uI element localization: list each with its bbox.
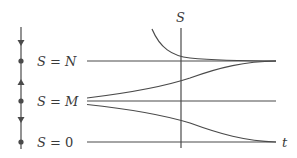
label-s-equals-m: S = M [37, 95, 78, 108]
label-var: S [37, 94, 46, 109]
s-axis-label: S [176, 11, 185, 24]
label-val: 0 [65, 135, 73, 150]
label-s-equals-zero: S = 0 [37, 136, 73, 149]
phase-diagram: S = N S = M S = 0 S t [0, 0, 297, 158]
label-eq: = [50, 54, 61, 69]
t-axis-label: t [282, 136, 287, 149]
arrow-down-icon [18, 40, 25, 46]
label-var: S [37, 54, 46, 69]
label-val: M [65, 94, 78, 109]
arrow-up-icon [18, 79, 25, 85]
t-axis-label-text: t [282, 135, 287, 150]
equilibrium-dot-n [18, 58, 23, 63]
arrow-down-icon [18, 117, 25, 123]
label-eq: = [50, 94, 61, 109]
equilibrium-dot-m [18, 98, 23, 103]
label-var: S [37, 135, 46, 150]
label-val: N [65, 54, 76, 69]
equilibrium-dot-zero [18, 139, 23, 144]
s-axis-label-text: S [176, 10, 185, 25]
label-s-equals-n: S = N [37, 55, 76, 68]
label-eq: = [50, 135, 61, 150]
solution-curve-above-n [152, 29, 276, 61]
